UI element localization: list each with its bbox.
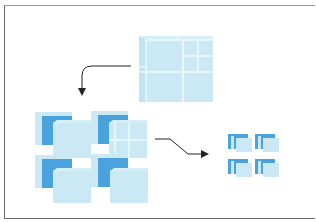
arrow-stage1-to-stage2 [82,66,131,93]
arrow-stage2-to-stage3 [155,139,206,154]
medium-cubes [35,111,148,203]
cube-decomposition-diagram [0,0,316,222]
small-cube-clusters [228,134,279,177]
big-cube [139,36,213,102]
